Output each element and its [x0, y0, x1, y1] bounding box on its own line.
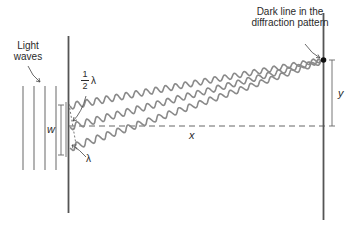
ray-top — [70, 59, 321, 109]
slit-width-label: w — [47, 124, 55, 135]
light-waves-label: Light waves — [6, 40, 50, 62]
half-lambda-symbol: λ — [91, 75, 96, 86]
y-bracket — [329, 60, 335, 126]
half-lambda-arrow-icon — [73, 96, 86, 121]
pointer-arrows — [28, 44, 320, 157]
ray-bottom — [70, 62, 321, 151]
light-waves-arrow-icon — [28, 66, 40, 82]
lambda-label: λ — [86, 153, 91, 164]
displacement-label: y — [338, 88, 344, 99]
light-waves-line1: Light — [6, 40, 50, 51]
dark-line-line1: Dark line in the — [246, 6, 334, 17]
half-lambda-label: 1 2 — [81, 70, 89, 91]
distance-label: x — [189, 130, 195, 141]
dark-line-dot — [321, 57, 327, 63]
slit-width-bracket — [58, 105, 64, 155]
ray-middle — [70, 59, 320, 129]
diffraction-diagram — [0, 0, 351, 230]
light-waves-line2: waves — [6, 51, 50, 62]
dark-line-label: Dark line in the diffraction pattern — [246, 6, 334, 28]
fraction-denominator: 2 — [81, 82, 89, 91]
diffracted-rays — [70, 59, 321, 150]
dark-line-line2: diffraction pattern — [246, 17, 334, 28]
fraction-numerator: 1 — [81, 70, 89, 79]
dark-line-arrow-icon — [305, 44, 320, 58]
